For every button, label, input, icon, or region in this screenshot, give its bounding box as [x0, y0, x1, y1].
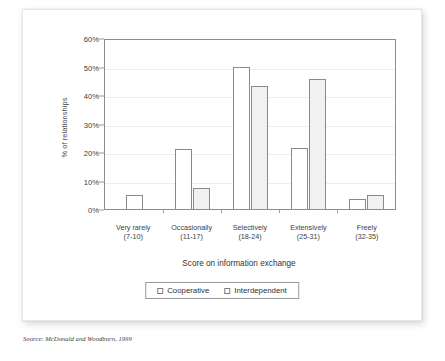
bar-group: [163, 40, 221, 209]
bar-interdependent-occasionally: [193, 188, 210, 209]
bar-group: [221, 40, 279, 209]
y-tick-label: 30%: [84, 120, 99, 129]
x-axis-title: Score on information exchange: [77, 259, 401, 268]
x-tick-label-range: (25-31): [279, 232, 337, 241]
bar-groups: [105, 40, 395, 209]
x-tick-label-name: Occasionally: [171, 223, 212, 232]
bar-group: [105, 40, 163, 209]
legend-swatch-interdependent: [224, 288, 230, 294]
bar-cooperative-freely: [349, 199, 366, 209]
y-axis-title-text: % of relationships: [60, 97, 69, 157]
legend-item-interdependent[interactable]: Interdependent: [224, 286, 286, 295]
source-note: Source: McDonald and Woodburn, 1999: [23, 335, 132, 342]
y-axis-title: % of relationships: [57, 65, 71, 190]
x-tick-label-name: Freely: [357, 223, 377, 232]
x-tick-label: Occasionally(11-17): [162, 223, 220, 241]
plot-area: 0%10%20%30%40%50%60%: [77, 39, 401, 221]
legend-item-cooperative[interactable]: Cooperative: [157, 286, 209, 295]
y-tick-label: 40%: [84, 92, 99, 101]
bar-cooperative-occasionally: [175, 149, 192, 209]
bar-interdependent-freely: [367, 195, 384, 209]
y-tick-label: 20%: [84, 149, 99, 158]
x-tick-label-name: Very rarely: [116, 223, 150, 232]
x-tick-label-name: Extensively: [290, 223, 326, 232]
bar-cooperative-selectively: [233, 67, 250, 210]
x-tick-label-range: (18-24): [221, 232, 279, 241]
x-tick-label: Freely(32-35): [338, 223, 396, 241]
legend-label: Interdependent: [234, 286, 286, 295]
x-axis-labels: Very rarely(7-10)Occasionally(11-17)Sele…: [104, 223, 396, 241]
y-tick-label: 0%: [88, 206, 99, 215]
chart-legend: CooperativeInterdependent: [145, 282, 299, 299]
x-tick-label-range: (7-10): [104, 232, 162, 241]
x-tick-label: Extensively(25-31): [279, 223, 337, 241]
bar-cooperative-extensively: [291, 148, 308, 209]
bar-interdependent-selectively: [251, 86, 268, 209]
y-tick-label: 60%: [84, 35, 99, 44]
x-tick-label: Very rarely(7-10): [104, 223, 162, 241]
legend-swatch-cooperative: [157, 288, 163, 294]
bar-group: [337, 40, 395, 209]
bar-cooperative-very-rarely: [126, 195, 143, 209]
y-tick-label: 10%: [84, 177, 99, 186]
x-tick-label-name: Selectively: [233, 223, 267, 232]
chart-card: % of relationships 0%10%20%30%40%50%60% …: [22, 9, 422, 321]
bar-interdependent-extensively: [309, 79, 326, 209]
y-axis-ticks: 0%10%20%30%40%50%60%: [77, 39, 104, 210]
x-tick-label-range: (11-17): [162, 232, 220, 241]
legend-label: Cooperative: [167, 286, 209, 295]
plot-frame: [104, 39, 396, 210]
bar-group: [279, 40, 337, 209]
y-tick-label: 50%: [84, 63, 99, 72]
x-tick-label: Selectively(18-24): [221, 223, 279, 241]
x-tick-label-range: (32-35): [338, 232, 396, 241]
